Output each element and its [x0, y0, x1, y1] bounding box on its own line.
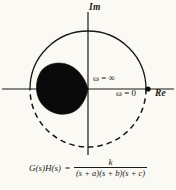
equation-equals-sign: =	[64, 163, 71, 173]
equation-left-hand-side: G(s)H(s)	[29, 163, 61, 173]
equation-fraction: k (s + a)(s + b)(s + c)	[74, 158, 147, 178]
real-axis-label: Re	[155, 88, 166, 98]
nyquist-plot-figure: Im Re ω = ∞ ω = 0 G(s)H(s) = k (s + a)(s…	[0, 0, 176, 190]
imaginary-axis-label: Im	[89, 2, 101, 12]
equation-denominator: (s + a)(s + b)(s + c)	[74, 168, 147, 178]
equation-numerator: k	[103, 158, 119, 167]
omega-zero-annotation: ω = 0	[116, 88, 136, 98]
nyquist-contour-lobe	[36, 63, 88, 114]
omega-infinity-annotation: ω = ∞	[93, 73, 115, 83]
omega-zero-marker-dot	[145, 86, 150, 91]
transfer-function-equation: G(s)H(s) = k (s + a)(s + b)(s + c)	[0, 158, 176, 178]
